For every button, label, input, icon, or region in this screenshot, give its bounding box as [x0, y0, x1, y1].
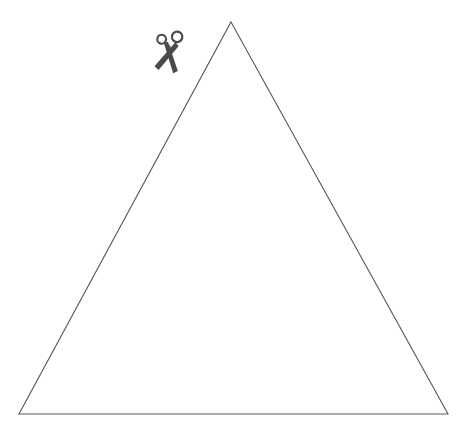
figure-svg	[0, 0, 474, 435]
page-canvas: Triangle Cut-Out Template	[0, 0, 474, 435]
canvas-background	[0, 0, 474, 435]
